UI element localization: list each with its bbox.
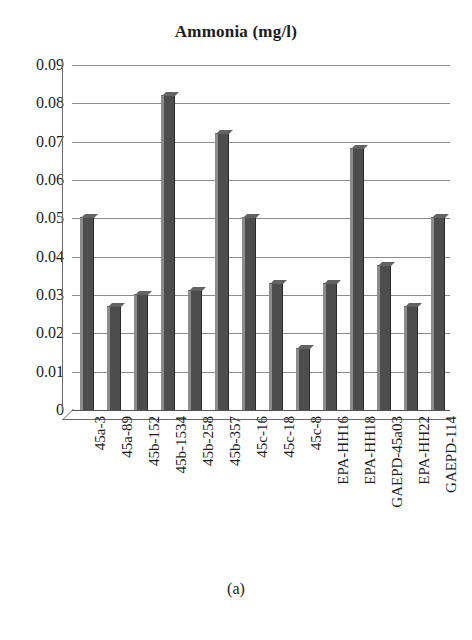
bar-top-cap <box>297 345 314 349</box>
x-axis-category-label: EPA-HH22 <box>417 416 432 485</box>
x-axis-category-label: GAEPD-114 <box>444 416 459 493</box>
bar <box>296 348 310 410</box>
bar-top-cap <box>324 280 341 284</box>
x-axis-category-label: 45b-357 <box>228 416 243 466</box>
bar <box>107 306 121 411</box>
y-axis-line <box>62 59 63 411</box>
bar <box>377 265 391 410</box>
y-axis-tick-label: 0.05 <box>36 210 64 226</box>
bar <box>215 133 229 410</box>
bar-top-cap <box>162 92 179 96</box>
x-axis-category-label: 45a-89 <box>120 416 135 458</box>
bar-highlight <box>80 218 83 410</box>
bar <box>80 217 94 410</box>
x-axis-category-label: GAEPD-45a03 <box>390 416 405 508</box>
bar-top-cap <box>270 280 287 284</box>
bar-highlight <box>107 307 110 411</box>
x-axis-category-label: 45a-3 <box>93 416 108 450</box>
bar-highlight <box>215 134 218 410</box>
y-axis-tick-label: 0.01 <box>36 364 64 380</box>
bar-top-cap <box>351 145 368 149</box>
x-axis-category-label: 45c-18 <box>282 416 297 458</box>
bar-highlight <box>161 96 164 410</box>
x-axis-category-labels: 45a-345a-8945b-15245b-153445b-25845b-357… <box>72 416 462 566</box>
bar-highlight <box>323 284 326 411</box>
bar-top-cap <box>135 291 152 295</box>
bar-highlight <box>242 218 245 410</box>
bar-highlight <box>431 218 434 410</box>
y-axis-tick-label: 0.06 <box>36 172 64 188</box>
x-axis-category-label: 45b-258 <box>201 416 216 466</box>
bar <box>161 95 175 410</box>
bar <box>323 283 337 411</box>
bar-top-cap <box>108 303 125 307</box>
x-axis-category-label: EPA-HH16 <box>336 416 351 485</box>
bar-highlight <box>350 149 353 410</box>
bar <box>269 283 283 411</box>
bar-series <box>72 65 450 410</box>
y-axis-tick-label: 0.07 <box>36 134 64 150</box>
bar <box>188 290 202 410</box>
plot-area <box>72 65 450 410</box>
bar-top-cap <box>216 130 233 134</box>
bar-highlight <box>377 266 380 410</box>
bar-top-cap <box>378 262 395 266</box>
gridline <box>72 410 450 411</box>
figure-caption: (a) <box>0 580 472 598</box>
bar-top-cap <box>432 214 449 218</box>
figure-panel: Ammonia (mg/l) 0.090.080.070.060.050.040… <box>0 0 472 640</box>
bar-top-cap <box>405 303 422 307</box>
y-axis-tick-label: 0.09 <box>36 57 64 73</box>
bar <box>431 217 445 410</box>
bar-top-cap <box>81 214 98 218</box>
bar <box>404 306 418 411</box>
x-axis-category-label: 45c-8 <box>309 416 324 450</box>
x-axis-category-label: 45b-152 <box>147 416 162 466</box>
chart-plot: 0.090.080.070.060.050.040.030.020.010 <box>0 0 472 425</box>
bar-highlight <box>269 284 272 411</box>
bar-highlight <box>404 307 407 411</box>
bar-highlight <box>134 295 137 410</box>
bar-highlight <box>296 349 299 410</box>
y-axis-tick-label: 0.03 <box>36 287 64 303</box>
bar-top-cap <box>189 287 206 291</box>
x-axis-category-label: EPA-HH18 <box>363 416 378 485</box>
y-axis-tick-labels: 0.090.080.070.060.050.040.030.020.010 <box>0 0 68 425</box>
x-axis-category-label: 45b-1534 <box>174 416 189 474</box>
x-axis-category-label: 45c-16 <box>255 416 270 458</box>
y-axis-tick-label: 0.08 <box>36 95 64 111</box>
bar-highlight <box>188 291 191 410</box>
bar <box>134 294 148 410</box>
bar-top-cap <box>243 214 260 218</box>
y-axis-tick-label: 0.04 <box>36 249 64 265</box>
bar <box>350 148 364 410</box>
y-axis-tick-label: 0.02 <box>36 325 64 341</box>
bar <box>242 217 256 410</box>
